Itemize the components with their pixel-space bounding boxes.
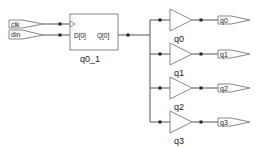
buffer-q3[interactable]: q3 bbox=[150, 111, 218, 146]
flipflop-q0_1[interactable]: D[0] Q[0] q0_1 bbox=[70, 14, 118, 64]
buffer-icon bbox=[170, 111, 192, 133]
buffer-icon bbox=[170, 77, 192, 99]
input-port-din-label: din bbox=[11, 31, 20, 38]
buffer-icon bbox=[170, 9, 192, 31]
svg-text:q1: q1 bbox=[220, 51, 228, 59]
output-port-q1[interactable]: q1 bbox=[218, 50, 250, 59]
svg-text:q0: q0 bbox=[220, 17, 228, 25]
buffer-q0[interactable]: q0 bbox=[150, 9, 218, 44]
output-port-q0[interactable]: q0 bbox=[218, 16, 250, 25]
wire-junction-dot bbox=[59, 23, 62, 26]
wire-junction-dot bbox=[127, 34, 130, 37]
input-port-din[interactable]: din bbox=[9, 30, 43, 39]
ff-instance-label: q0_1 bbox=[80, 54, 100, 64]
ff-d-pin-label: D[0] bbox=[74, 32, 86, 40]
wire-clk[interactable] bbox=[43, 23, 70, 26]
wire-din[interactable] bbox=[43, 34, 70, 37]
output-port-q3[interactable]: q3 bbox=[218, 118, 250, 127]
buffer-q2[interactable]: q2 bbox=[150, 77, 218, 112]
buffer-icon bbox=[170, 43, 192, 65]
svg-text:q2: q2 bbox=[220, 85, 228, 93]
buffer-q1-label: q1 bbox=[174, 68, 184, 78]
input-port-clk[interactable]: clk bbox=[9, 20, 43, 28]
wire-junction-dot bbox=[59, 34, 62, 37]
ff-q-pin-label: Q[0] bbox=[97, 32, 109, 40]
buffer-q1[interactable]: q1 bbox=[150, 43, 218, 78]
buffer-q3-label: q3 bbox=[174, 136, 184, 146]
schematic-canvas: clk din D[0] Q[0] q0_1 q0 bbox=[0, 0, 260, 148]
buffer-q0-label: q0 bbox=[174, 34, 184, 44]
svg-text:q3: q3 bbox=[220, 119, 228, 127]
buffer-q2-label: q2 bbox=[174, 102, 184, 112]
wire-ff-output[interactable] bbox=[118, 20, 150, 122]
input-port-clk-label: clk bbox=[11, 21, 20, 28]
output-port-q2[interactable]: q2 bbox=[218, 84, 250, 93]
